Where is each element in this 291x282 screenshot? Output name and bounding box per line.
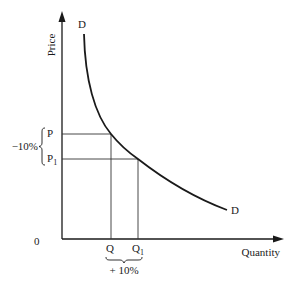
price-p1-label: P1 [47, 152, 57, 167]
quantity-q1-label: Q1 [132, 242, 144, 257]
x-axis-arrow-icon [273, 236, 284, 243]
y-axis-label: Price [45, 34, 57, 57]
quantity-change-label: + 10% [109, 264, 138, 276]
origin-label: 0 [34, 235, 40, 247]
price-change-label: −10% [12, 140, 38, 152]
quantity-brace-icon [106, 257, 142, 263]
x-axis-label: Quantity [242, 246, 281, 258]
quantity-q-label: Q [106, 242, 114, 254]
price-p-label: P [47, 127, 53, 139]
y-axis-arrow-icon [59, 11, 66, 22]
demand-curve-chart: Price Quantity 0 D D P P1 −10% Q Q1 + 10… [0, 0, 291, 282]
demand-curve [84, 34, 227, 210]
price-brace-icon [39, 128, 45, 165]
curve-label-start: D [78, 18, 86, 30]
curve-label-end: D [231, 204, 239, 216]
